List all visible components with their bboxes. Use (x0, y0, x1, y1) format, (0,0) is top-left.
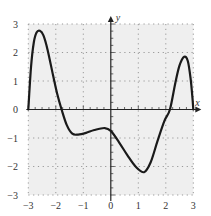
x-tick-label: −3 (23, 200, 34, 211)
y-tick-label: 3 (13, 19, 18, 30)
y-tick-label: −2 (7, 161, 18, 172)
x-tick-label: 1 (136, 200, 141, 211)
y-tick-label: 0 (13, 104, 18, 115)
x-axis-label: x (194, 97, 200, 108)
y-tick-labels: −3−2−10123 (7, 19, 18, 201)
function-graph: x y −3−2−10123 −3−2−10123 (0, 0, 211, 216)
x-tick-label: 2 (163, 200, 168, 211)
x-tick-label: 0 (108, 200, 113, 211)
y-tick-label: 1 (13, 76, 18, 87)
y-axis-arrow-icon (108, 16, 114, 22)
x-tick-label: −1 (78, 200, 89, 211)
y-axis-label: y (115, 12, 121, 23)
x-tick-labels: −3−2−10123 (23, 200, 196, 211)
y-tick-label: 2 (13, 47, 18, 58)
y-tick-label: −3 (7, 190, 18, 201)
x-tick-label: −2 (50, 200, 61, 211)
y-tick-label: −1 (7, 133, 18, 144)
x-tick-label: 3 (191, 200, 196, 211)
